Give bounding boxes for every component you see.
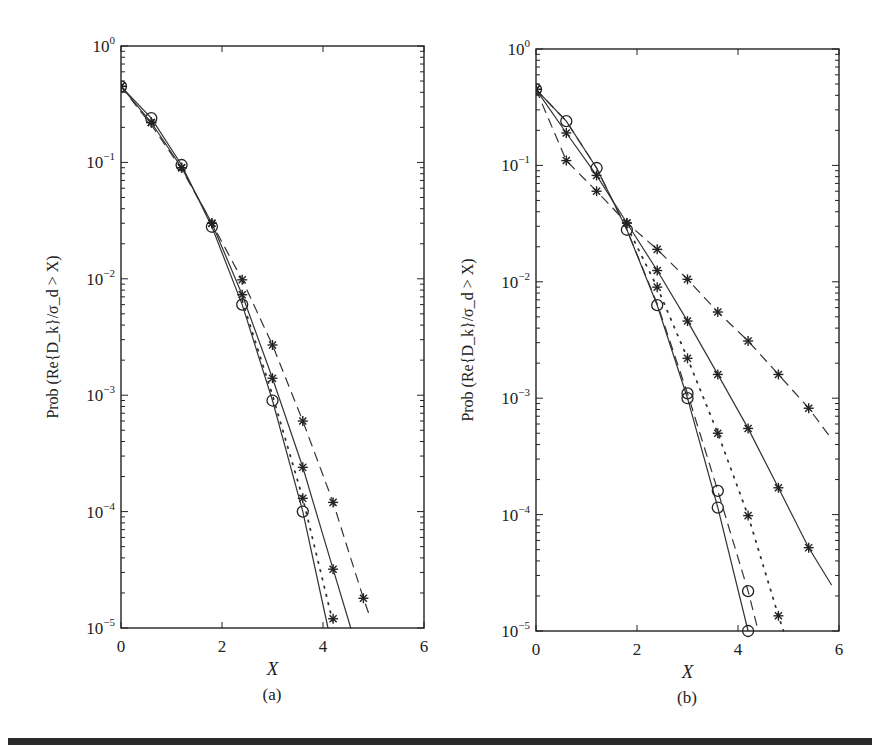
star-marker <box>237 290 247 300</box>
star-marker <box>683 274 693 284</box>
panel-caption: (b) <box>677 688 697 707</box>
star-marker <box>652 282 662 292</box>
y-axis-label: Prob (Re{D_k}/σ_d > X) <box>44 255 62 418</box>
star-marker <box>328 497 338 507</box>
chart-panel-a: 024610010−110−210−310−410−5XProb (Re{D_k… <box>44 34 428 704</box>
y-tick-label: 10−4 <box>86 500 115 522</box>
y-tick-label: 10−4 <box>501 503 530 525</box>
series-circles-dashdot <box>536 89 758 631</box>
series-stars-solid <box>116 81 351 628</box>
star-marker <box>713 428 723 438</box>
x-tick-label: 6 <box>420 637 429 656</box>
x-tick-label: 2 <box>218 637 227 656</box>
series-circles-solid <box>531 84 754 637</box>
x-tick-label: 4 <box>319 637 328 656</box>
x-tick-label: 0 <box>117 637 126 656</box>
star-marker <box>652 266 662 276</box>
star-marker <box>358 593 368 603</box>
circle-marker <box>712 485 723 496</box>
star-marker <box>298 493 308 503</box>
figure: 024610010−110−210−310−410−5XProb (Re{D_k… <box>0 0 882 756</box>
star-marker <box>268 340 278 350</box>
star-marker <box>713 369 723 379</box>
series-circles-solid <box>116 81 329 628</box>
series-stars-dashed <box>531 84 831 438</box>
star-marker <box>773 483 783 493</box>
x-tick-label: 4 <box>734 640 743 659</box>
star-marker <box>683 353 693 363</box>
star-marker <box>773 369 783 379</box>
star-marker <box>561 156 571 166</box>
series-stars-dashed <box>116 81 369 612</box>
y-tick-label: 10−3 <box>86 383 115 405</box>
series-stars-solid <box>531 84 831 584</box>
star-marker <box>652 244 662 254</box>
star-marker <box>328 564 338 574</box>
y-tick-label: 10−5 <box>86 616 115 638</box>
star-marker <box>177 163 187 173</box>
x-axis-label: X <box>266 658 280 679</box>
star-marker <box>298 462 308 472</box>
star-marker <box>561 128 571 138</box>
star-marker <box>743 423 753 433</box>
star-marker <box>743 336 753 346</box>
x-tick-label: 2 <box>633 640 642 659</box>
star-marker <box>804 403 814 413</box>
y-tick-label: 100 <box>93 34 116 56</box>
star-marker <box>713 307 723 317</box>
star-marker <box>743 511 753 521</box>
panel-caption: (a) <box>263 685 282 704</box>
y-tick-label: 100 <box>508 37 531 59</box>
star-marker <box>116 81 126 91</box>
y-tick-label: 10−5 <box>501 619 530 641</box>
star-marker <box>146 118 156 128</box>
x-tick-label: 6 <box>835 640 844 659</box>
bottom-rule <box>8 738 872 745</box>
y-tick-label: 10−2 <box>86 267 115 289</box>
y-axis-label: Prob (Re{D_k}/σ_d > X) <box>459 258 477 421</box>
y-tick-label: 10−1 <box>501 153 530 175</box>
star-marker <box>592 186 602 196</box>
star-marker <box>773 611 783 621</box>
x-tick-label: 0 <box>532 640 541 659</box>
star-marker <box>207 218 217 228</box>
x-axis-label: X <box>681 661 695 682</box>
plot-area <box>536 49 839 631</box>
star-marker <box>531 84 541 94</box>
star-marker <box>237 275 247 285</box>
star-marker <box>298 416 308 426</box>
chart-panel-b: 024610010−110−210−310−410−5XProb (Re{D_k… <box>459 37 843 707</box>
plot-area <box>121 46 424 628</box>
y-tick-label: 10−1 <box>86 150 115 172</box>
star-marker <box>592 170 602 180</box>
star-marker <box>804 543 814 553</box>
star-marker <box>328 614 338 624</box>
y-tick-label: 10−2 <box>501 270 530 292</box>
star-marker <box>683 316 693 326</box>
y-tick-label: 10−3 <box>501 386 530 408</box>
